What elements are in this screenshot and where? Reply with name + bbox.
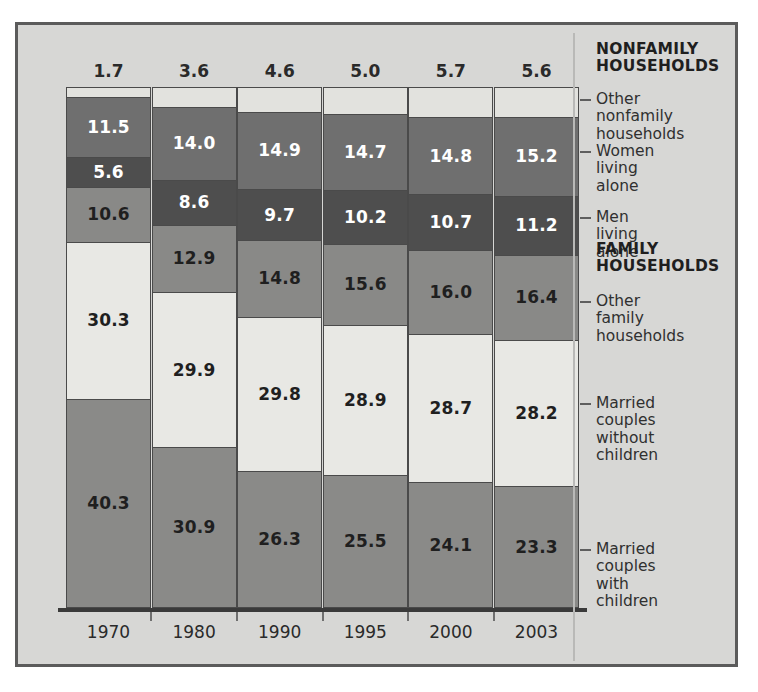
x-axis-tick	[322, 612, 324, 621]
legend-item: Other family households	[596, 293, 684, 345]
bar-segment: 23.3	[495, 486, 578, 607]
bar-segment: 29.9	[153, 292, 236, 447]
segment-value: 14.0	[173, 135, 216, 152]
bar-segment: 29.8	[238, 317, 321, 471]
bar-segment	[409, 88, 492, 117]
chart-frame: 1.711.55.610.630.340.33.614.08.612.929.9…	[15, 22, 738, 667]
segment-value: 10.6	[87, 206, 130, 223]
bar-segment: 30.3	[67, 242, 150, 399]
bar-segment: 26.3	[238, 471, 321, 607]
bar-segment: 14.9	[238, 112, 321, 190]
segment-value: 14.8	[258, 270, 301, 287]
bar-total-label: 4.6	[237, 61, 322, 81]
segment-value: 28.9	[344, 392, 387, 409]
bar-segment: 14.8	[409, 117, 492, 194]
bar-segment: 16.0	[409, 250, 492, 333]
legend-leader-line	[580, 99, 591, 101]
x-axis-tick	[407, 612, 409, 621]
stacked-bar-1980: 14.08.612.929.930.9	[152, 87, 237, 608]
bar-segment	[238, 88, 321, 112]
bar-segment	[324, 88, 407, 114]
legend-item: Women living alone	[596, 143, 654, 195]
segment-value: 14.9	[258, 142, 301, 159]
legend-divider	[573, 33, 575, 661]
segment-value: 29.9	[173, 362, 216, 379]
bar-segment: 15.6	[324, 244, 407, 325]
bar-segment: 10.6	[67, 187, 150, 242]
x-axis-label-1970: 1970	[66, 622, 151, 642]
x-axis-label-1990: 1990	[237, 622, 322, 642]
legend-item: Married couples with children	[596, 541, 658, 610]
x-axis-label-1980: 1980	[152, 622, 237, 642]
segment-value: 40.3	[87, 495, 130, 512]
chart-screenshot: 1.711.55.610.630.340.33.614.08.612.929.9…	[0, 0, 758, 692]
x-axis-tick	[493, 612, 495, 621]
bar-total-label: 5.7	[408, 61, 493, 81]
bar-segment: 8.6	[153, 180, 236, 225]
legend-leader-line	[580, 549, 591, 551]
segment-value: 12.9	[173, 250, 216, 267]
segment-value: 11.2	[515, 217, 558, 234]
segment-value: 28.7	[430, 400, 473, 417]
segment-value: 14.7	[344, 144, 387, 161]
bar-total-label: 1.7	[66, 61, 151, 81]
bar-segment: 14.0	[153, 107, 236, 180]
bar-segment: 14.8	[238, 240, 321, 317]
bar-segment: 16.4	[495, 255, 578, 340]
bar-segment	[67, 88, 150, 97]
segment-value: 30.9	[173, 519, 216, 536]
legend-leader-line	[580, 403, 591, 405]
segment-value: 30.3	[87, 312, 130, 329]
segment-value: 11.5	[87, 119, 130, 136]
segment-value: 24.1	[430, 537, 473, 554]
bar-segment: 9.7	[238, 189, 321, 240]
segment-value: 29.8	[258, 386, 301, 403]
segment-value: 10.7	[430, 214, 473, 231]
x-axis-label-1995: 1995	[323, 622, 408, 642]
bar-segment: 15.2	[495, 117, 578, 196]
bar-total-label: 5.6	[494, 61, 579, 81]
bar-segment: 24.1	[409, 482, 492, 607]
segment-value: 5.6	[93, 164, 124, 181]
bar-segment: 25.5	[324, 475, 407, 607]
bar-segment: 10.7	[409, 194, 492, 250]
segment-value: 23.3	[515, 539, 558, 556]
bar-segment	[495, 88, 578, 117]
bar-segment	[153, 88, 236, 107]
segment-value: 8.6	[179, 194, 210, 211]
x-axis-tick	[236, 612, 238, 621]
bar-segment: 12.9	[153, 225, 236, 292]
segment-value: 25.5	[344, 533, 387, 550]
legend-leader-line	[580, 217, 591, 219]
bar-segment: 30.9	[153, 447, 236, 607]
segment-value: 14.8	[430, 148, 473, 165]
legend-group-header: NONFAMILY HOUSEHOLDS	[596, 41, 720, 76]
stacked-bar-1995: 14.710.215.628.925.5	[323, 87, 408, 608]
bar-segment: 28.7	[409, 334, 492, 483]
segment-value: 26.3	[258, 531, 301, 548]
x-axis-label-2003: 2003	[494, 622, 579, 642]
bar-segment: 5.6	[67, 157, 150, 187]
legend-group-header: FAMILY HOUSEHOLDS	[596, 241, 720, 276]
bar-segment: 28.2	[495, 340, 578, 486]
segment-value: 15.2	[515, 148, 558, 165]
x-axis-label-2000: 2000	[408, 622, 493, 642]
x-axis-tick	[150, 612, 152, 621]
segment-value: 15.6	[344, 276, 387, 293]
segment-value: 10.2	[344, 209, 387, 226]
stacked-bar-2000: 14.810.716.028.724.1	[408, 87, 493, 608]
legend-leader-line	[580, 151, 591, 153]
stacked-bar-1990: 14.99.714.829.826.3	[237, 87, 322, 608]
segment-value: 16.0	[430, 284, 473, 301]
bar-total-label: 3.6	[152, 61, 237, 81]
legend-leader-line	[580, 301, 591, 303]
stacked-bar-1970: 11.55.610.630.340.3	[66, 87, 151, 608]
bar-segment: 11.2	[495, 196, 578, 255]
bar-segment: 10.2	[324, 190, 407, 243]
bar-segment: 40.3	[67, 399, 150, 607]
stacked-bar-2003: 15.211.216.428.223.3	[494, 87, 579, 608]
segment-value: 16.4	[515, 289, 558, 306]
bar-segment: 28.9	[324, 325, 407, 475]
bar-total-label: 5.0	[323, 61, 408, 81]
bar-segment: 14.7	[324, 114, 407, 191]
